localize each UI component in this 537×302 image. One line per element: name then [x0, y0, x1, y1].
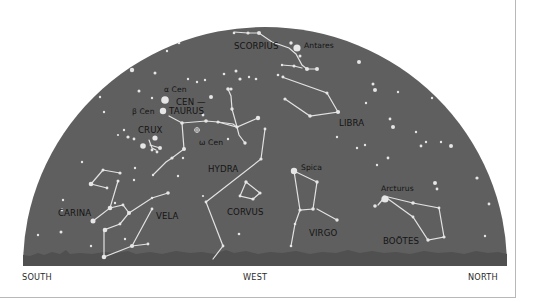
label-corvus: CORVUS — [227, 207, 264, 217]
star-spica — [291, 168, 297, 174]
label-centaurus-line2: TAURUS — [168, 106, 204, 116]
label-crux: CRUX — [138, 125, 163, 135]
label-omega-cen: ω Cen — [199, 138, 223, 147]
label-arcturus: Arcturus — [381, 184, 414, 193]
star-antares — [293, 44, 300, 51]
label-vela: VELA — [156, 211, 179, 221]
sky-dome — [23, 27, 507, 266]
label-libra: LIBRA — [339, 118, 364, 128]
frame-right-edge — [515, 0, 516, 298]
label-virgo: VIRGO — [309, 228, 337, 238]
label-alpha-cen: α Cen — [164, 85, 187, 94]
star-arcturus — [381, 195, 388, 202]
sky-chart: SCORPIUS CEN — TAURUS CRUX LIBRA HYDRA C… — [0, 0, 537, 302]
label-spica: Spica — [301, 163, 322, 172]
label-hydra: HYDRA — [208, 164, 238, 174]
direction-labels: SOUTH WEST NORTH — [22, 272, 498, 282]
direction-north: NORTH — [468, 272, 498, 282]
label-carina: CARINA — [58, 208, 91, 218]
star-alpha-cen — [161, 96, 169, 104]
label-scorpius: SCORPIUS — [234, 41, 278, 51]
star-beta-cen — [160, 108, 166, 114]
label-antares: Antares — [304, 41, 334, 50]
label-bootes: BOÖTES — [383, 236, 419, 246]
direction-west: WEST — [243, 272, 268, 282]
label-beta-cen: β Cen — [132, 107, 155, 116]
frame-bottom-edge — [0, 297, 516, 298]
direction-south: SOUTH — [22, 272, 52, 282]
